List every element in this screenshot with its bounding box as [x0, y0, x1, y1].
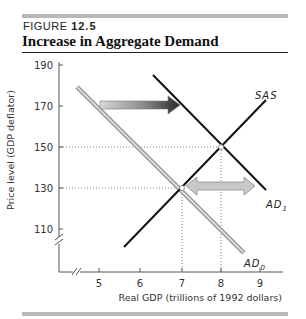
sas-curve	[124, 100, 266, 247]
ad1-curve	[153, 75, 266, 190]
x-tick-6: 6	[137, 278, 143, 289]
guide-lines	[60, 147, 221, 272]
y-axis-title: Price level (GDP deflator)	[5, 90, 16, 210]
x-tick-7: 7	[179, 278, 185, 289]
y-axis: 190 170 150 130 110 Price level (GDP def…	[5, 60, 63, 272]
bottom-rule	[22, 312, 288, 316]
chart: 190 170 150 130 110 Price level (GDP def…	[0, 0, 306, 319]
y-tick-110: 110	[34, 224, 53, 235]
new-equilibrium-point	[219, 145, 224, 150]
ad1-label: AD1	[265, 199, 288, 213]
ad0-label: AD0	[243, 258, 266, 272]
x-tick-8: 8	[218, 278, 224, 289]
x-axis-title: Real GDP (trillions of 1992 dollars)	[119, 292, 283, 303]
shift-arrow-icon	[100, 96, 180, 114]
y-tick-150: 150	[34, 142, 53, 153]
y-tick-130: 130	[34, 183, 53, 194]
x-axis: 5 6 7 8 9 Real GDP (trillions of 1992 do…	[59, 268, 283, 303]
sas-label: SAS	[255, 90, 278, 101]
x-tick-5: 5	[96, 278, 102, 289]
double-arrow-icon	[186, 177, 255, 195]
y-tick-170: 170	[34, 101, 53, 112]
initial-equilibrium-point	[180, 186, 185, 191]
ad0-curve	[77, 87, 244, 253]
x-tick-9: 9	[257, 278, 263, 289]
y-tick-190: 190	[34, 60, 53, 71]
